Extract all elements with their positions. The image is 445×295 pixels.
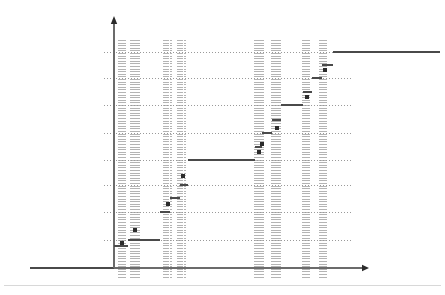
data-point-marker-3 — [166, 202, 170, 206]
data-point-marker-7 — [275, 126, 279, 130]
footer-divider — [4, 285, 441, 286]
data-point-marker-9 — [323, 68, 327, 72]
data-point-marker-4 — [181, 174, 185, 178]
data-point-marker-2 — [133, 228, 137, 232]
y-axis-arrow-icon — [111, 16, 117, 24]
figure-canvas — [0, 0, 445, 295]
data-point-marker-5 — [257, 150, 261, 154]
data-point-marker-1 — [120, 241, 124, 245]
step-plot-svg — [0, 0, 445, 295]
data-point-marker-6 — [260, 142, 264, 146]
x-axis-arrow-icon — [362, 265, 369, 271]
data-point-marker-8 — [305, 95, 309, 99]
